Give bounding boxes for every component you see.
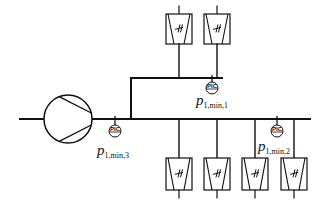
upper-consumer-valve-icon xyxy=(166,14,192,44)
pic-tag: PIC xyxy=(272,126,283,132)
pressure-symbol: p xyxy=(258,138,266,154)
upper-consumer-valve-icon xyxy=(204,14,230,44)
lower-consumer-valve-icon xyxy=(281,158,307,190)
pic-tag: PIC xyxy=(110,126,121,132)
lower-consumer-valve-icon xyxy=(166,158,192,190)
pressure-subscript: 1,min,1 xyxy=(204,101,228,110)
pressure-label-pic2: p1,min,2 xyxy=(258,138,290,154)
pressure-subscript: 1,min,2 xyxy=(266,147,290,156)
compressor-icon xyxy=(44,95,92,143)
process-diagram: PICPICPIC xyxy=(0,0,324,203)
pressure-label-pic3: p1,min,3 xyxy=(97,142,129,158)
pressure-label-pic1: p1,min,1 xyxy=(196,92,228,108)
pressure-symbol: p xyxy=(196,92,204,108)
lower-consumer-valve-icon xyxy=(204,158,230,190)
pic-tag: PIC xyxy=(207,83,218,89)
lower-consumer-valve-icon xyxy=(242,158,268,190)
pressure-subscript: 1,min,3 xyxy=(105,151,129,160)
pressure-symbol: p xyxy=(97,142,105,158)
